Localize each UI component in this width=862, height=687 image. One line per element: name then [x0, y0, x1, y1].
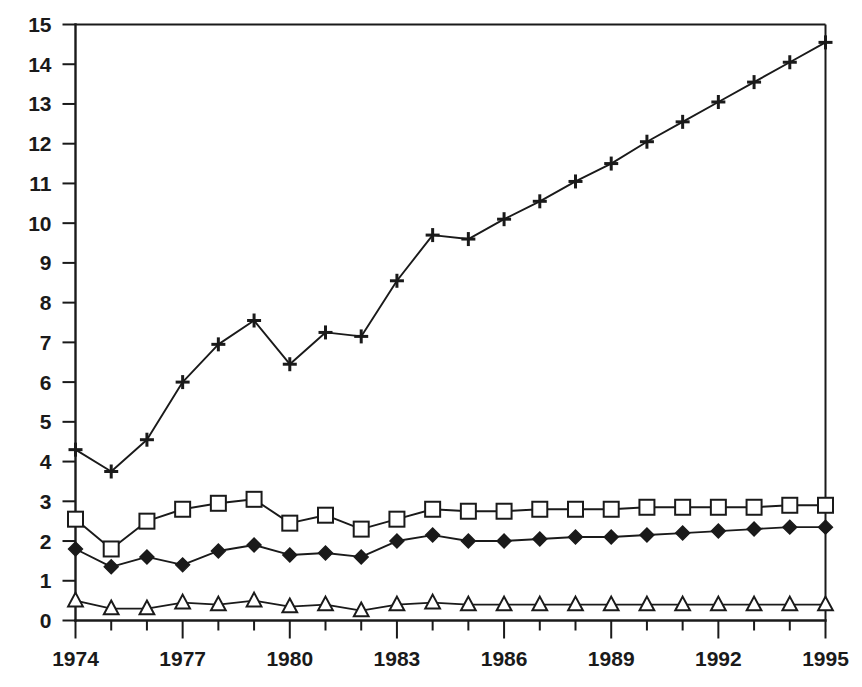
x-tick-label: 1989 — [588, 647, 635, 670]
series-diamond-marker — [247, 538, 261, 552]
series-square-marker — [461, 504, 476, 519]
x-axis-tick-labels: 19741977198019831986198919921995 — [52, 647, 849, 670]
y-tick-label: 1 — [40, 569, 52, 592]
series-diamond-marker — [497, 534, 511, 548]
x-tick-label: 1983 — [374, 647, 421, 670]
y-tick-label: 15 — [28, 13, 52, 36]
series-diamond-marker — [461, 534, 475, 548]
x-tick-label: 1980 — [266, 647, 313, 670]
series-diamond-marker — [783, 520, 797, 534]
series-diamond-marker — [176, 558, 190, 572]
series-square-marker — [175, 502, 190, 517]
x-tick-label: 1974 — [52, 647, 99, 670]
series-triangle-marker — [568, 597, 583, 611]
series-plus-line — [76, 42, 826, 471]
line-chart: 0123456789101112131415 19741977198019831… — [0, 0, 862, 687]
y-tick-label: 6 — [40, 371, 52, 394]
series-diamond-marker — [69, 542, 83, 556]
y-tick-label: 11 — [29, 172, 52, 195]
series-triangle-marker — [782, 597, 797, 611]
series-square-marker — [389, 512, 404, 527]
series-diamond-marker — [426, 528, 440, 542]
series-triangle-marker — [640, 597, 655, 611]
series-diamond-marker — [676, 526, 690, 540]
series-diamond-marker — [211, 544, 225, 558]
series-diamond-marker — [319, 546, 333, 560]
series-plus — [69, 35, 833, 478]
series-diamond — [69, 520, 833, 574]
series-square-marker — [354, 522, 369, 537]
series-square-marker — [711, 500, 726, 515]
series-diamond-marker — [354, 550, 368, 564]
series-square-marker — [532, 502, 547, 517]
series-triangle-marker — [675, 597, 690, 611]
y-tick-label: 14 — [28, 53, 52, 76]
y-tick-label: 5 — [40, 410, 52, 433]
series-square-marker — [139, 514, 154, 529]
series-square-marker — [318, 508, 333, 523]
series-triangle-marker — [425, 595, 440, 609]
series-triangle-marker — [747, 597, 762, 611]
series-square-marker — [425, 502, 440, 517]
series-square-marker — [497, 504, 512, 519]
series-diamond-marker — [747, 522, 761, 536]
series-diamond-marker — [569, 530, 583, 544]
series-diamond-marker — [819, 520, 833, 534]
series-square-marker — [568, 502, 583, 517]
chart-canvas: 0123456789101112131415 19741977198019831… — [0, 0, 862, 687]
series-square-marker — [782, 498, 797, 513]
series-diamond-marker — [711, 524, 725, 538]
y-axis-tick-labels: 0123456789101112131415 — [28, 13, 52, 632]
series-triangle-marker — [497, 597, 512, 611]
series-square-marker — [604, 502, 619, 517]
y-tick-label: 4 — [40, 450, 52, 473]
y-tick-label: 12 — [28, 132, 51, 155]
y-tick-label: 2 — [40, 530, 52, 553]
data-series-group — [68, 35, 833, 616]
x-tick-label: 1992 — [695, 647, 742, 670]
y-tick-label: 7 — [40, 331, 52, 354]
series-diamond-marker — [533, 532, 547, 546]
series-square-marker — [247, 492, 262, 507]
y-axis-ticks — [63, 25, 76, 621]
series-diamond-marker — [604, 530, 618, 544]
series-triangle-marker — [175, 595, 190, 609]
x-axis-ticks — [76, 621, 826, 639]
y-tick-label: 13 — [28, 92, 51, 115]
series-square-marker — [639, 500, 654, 515]
series-diamond-marker — [104, 560, 118, 574]
series-square-marker — [68, 512, 83, 527]
series-diamond-marker — [283, 548, 297, 562]
x-tick-label: 1986 — [481, 647, 528, 670]
x-tick-label: 1977 — [159, 647, 206, 670]
y-tick-label: 3 — [40, 490, 52, 513]
series-diamond-marker — [640, 528, 654, 542]
series-triangle-marker — [711, 597, 726, 611]
series-square-marker — [211, 496, 226, 511]
series-square-marker — [747, 500, 762, 515]
y-tick-label: 8 — [40, 291, 52, 314]
x-tick-label: 1995 — [802, 647, 849, 670]
series-square-marker — [104, 541, 119, 556]
series-triangle-marker — [604, 597, 619, 611]
series-triangle-marker — [68, 593, 83, 607]
y-tick-label: 0 — [40, 609, 52, 632]
series-triangle-marker — [318, 597, 333, 611]
series-triangle — [68, 593, 833, 617]
series-diamond-marker — [390, 534, 404, 548]
series-square-marker — [818, 498, 833, 513]
series-square-marker — [282, 516, 297, 531]
series-square-marker — [675, 500, 690, 515]
series-diamond-marker — [140, 550, 154, 564]
y-tick-label: 9 — [40, 251, 52, 274]
y-tick-label: 10 — [28, 212, 51, 235]
series-triangle-marker — [247, 593, 262, 607]
series-triangle-marker — [818, 597, 833, 611]
series-triangle-marker — [532, 597, 547, 611]
